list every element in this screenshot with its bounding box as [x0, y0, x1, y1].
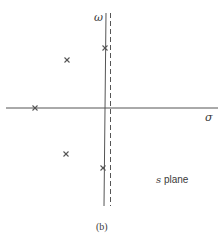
plane-word: plane	[161, 174, 188, 185]
pole-cross-icon	[65, 58, 70, 63]
pole-cross-icon	[64, 152, 69, 157]
omega-axis	[104, 13, 106, 206]
sigma-label: σ	[205, 112, 213, 123]
omega-label: ω	[94, 12, 103, 23]
figure-caption: (b)	[96, 222, 108, 232]
s-plane-diagram	[0, 0, 224, 236]
pole-cross-icon	[103, 46, 108, 51]
s-plane-label: s plane	[156, 175, 188, 185]
